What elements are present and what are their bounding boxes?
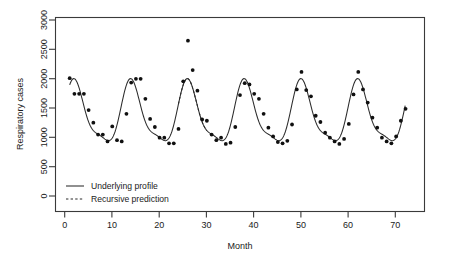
data-point <box>361 88 365 92</box>
data-point <box>210 133 214 137</box>
data-point <box>87 108 91 112</box>
data-point <box>177 127 181 131</box>
y-tick-label: 3000 <box>39 10 49 30</box>
data-point <box>120 140 124 144</box>
x-axis-tick-labels: 0 10 20 30 40 50 60 70 <box>62 220 400 230</box>
data-point <box>375 126 379 130</box>
data-point <box>233 125 237 129</box>
data-point <box>371 116 375 120</box>
data-point <box>172 141 176 145</box>
data-point <box>214 138 218 142</box>
data-point <box>162 136 166 140</box>
x-tick-label: 0 <box>62 220 67 230</box>
data-point <box>281 141 285 145</box>
data-point <box>186 39 190 43</box>
x-tick-label: 70 <box>390 220 400 230</box>
data-point <box>91 121 95 125</box>
data-point <box>385 140 389 144</box>
data-point <box>319 120 323 124</box>
data-point <box>101 133 105 137</box>
data-point <box>366 101 370 105</box>
chart-svg: 0 500 1000 1500 2000 2500 3000 Respirato… <box>0 0 450 275</box>
data-point <box>106 140 110 144</box>
y-tick-label: 500 <box>39 159 49 174</box>
data-point <box>158 136 162 140</box>
data-point <box>200 118 204 122</box>
x-tick-label: 10 <box>107 220 117 230</box>
x-axis-title: Month <box>227 241 252 251</box>
data-point <box>148 117 152 121</box>
data-point <box>191 68 195 72</box>
data-point <box>224 142 228 146</box>
legend-label-underlying-profile: Underlying profile <box>91 181 158 191</box>
data-point <box>167 141 171 145</box>
data-point <box>82 92 86 96</box>
data-point <box>229 141 233 145</box>
y-axis-title: Respiratory cases <box>15 77 25 150</box>
data-point <box>153 125 157 129</box>
x-tick-label: 40 <box>249 220 259 230</box>
data-point <box>399 119 403 123</box>
data-point <box>139 77 143 81</box>
data-point <box>96 133 100 137</box>
data-point <box>394 135 398 139</box>
data-point <box>257 97 261 101</box>
data-point <box>110 124 114 128</box>
data-point <box>262 112 266 116</box>
data-point <box>243 81 247 85</box>
y-axis-ticks <box>49 20 55 196</box>
data-point <box>300 70 304 74</box>
x-tick-label: 20 <box>154 220 164 230</box>
data-point <box>271 135 275 139</box>
x-tick-label: 50 <box>296 220 306 230</box>
y-tick-label: 2000 <box>39 69 49 89</box>
data-point <box>238 93 242 97</box>
data-point <box>205 119 209 123</box>
data-point <box>389 141 393 145</box>
x-axis-ticks <box>65 212 396 218</box>
profile-path <box>70 79 406 141</box>
data-point <box>266 126 270 130</box>
data-point <box>219 136 223 140</box>
y-tick-label: 1000 <box>39 127 49 147</box>
data-point <box>248 83 252 87</box>
data-point <box>342 137 346 141</box>
data-point <box>181 79 185 83</box>
data-point <box>404 107 408 111</box>
data-point <box>295 88 299 92</box>
data-point <box>347 122 351 126</box>
data-point <box>309 94 313 98</box>
data-point <box>314 114 318 118</box>
data-point <box>356 70 360 74</box>
data-point <box>73 92 77 96</box>
data-point <box>352 93 356 97</box>
data-point <box>328 136 332 140</box>
y-axis-tick-labels: 0 500 1000 1500 2000 2500 3000 <box>39 10 49 199</box>
x-tick-label: 60 <box>343 220 353 230</box>
legend-label-recursive-prediction: Recursive prediction <box>91 194 169 204</box>
y-tick-label: 2500 <box>39 39 49 59</box>
x-tick-label: 30 <box>201 220 211 230</box>
data-point <box>129 81 133 85</box>
data-point <box>323 131 327 135</box>
data-point <box>276 140 280 144</box>
data-point <box>285 139 289 143</box>
data-point <box>68 76 72 80</box>
data-point <box>77 92 81 96</box>
chart-legend: Underlying profile Recursive prediction <box>66 181 169 204</box>
data-point <box>125 112 129 116</box>
y-tick-label: 1500 <box>39 98 49 118</box>
respiratory-cases-chart: 0 500 1000 1500 2000 2500 3000 Respirato… <box>0 0 450 275</box>
y-tick-label: 0 <box>39 193 49 198</box>
data-point <box>290 123 294 127</box>
data-point <box>333 140 337 144</box>
data-point <box>380 136 384 140</box>
data-point <box>134 77 138 81</box>
data-point <box>143 97 147 101</box>
underlying-profile-line <box>70 79 406 141</box>
data-point <box>196 89 200 93</box>
data-point <box>304 88 308 92</box>
data-point <box>115 138 119 142</box>
data-point <box>337 142 341 146</box>
data-point <box>252 92 256 96</box>
